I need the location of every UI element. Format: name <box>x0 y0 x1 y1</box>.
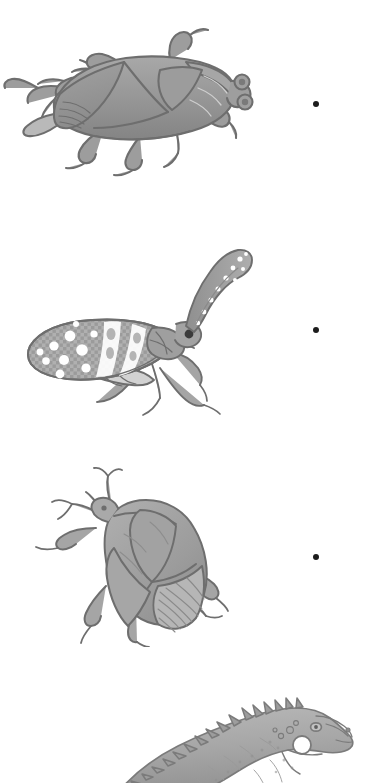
illustration-waterbug[interactable] <box>0 18 280 193</box>
match-dot-lanternfly[interactable] <box>313 327 319 333</box>
reptile-iguana-icon <box>120 690 375 783</box>
match-dot-shieldbug[interactable] <box>313 554 319 560</box>
illustration-shieldbug[interactable] <box>0 452 280 647</box>
insect-lanternfly-icon <box>0 228 280 428</box>
insect-shield-bug-icon <box>0 452 280 647</box>
insect-true-bug-icon <box>0 18 280 193</box>
match-dot-waterbug[interactable] <box>313 101 319 107</box>
worksheet-page <box>0 0 375 783</box>
illustration-lanternfly[interactable] <box>0 228 280 428</box>
illustration-iguana[interactable] <box>120 690 375 783</box>
